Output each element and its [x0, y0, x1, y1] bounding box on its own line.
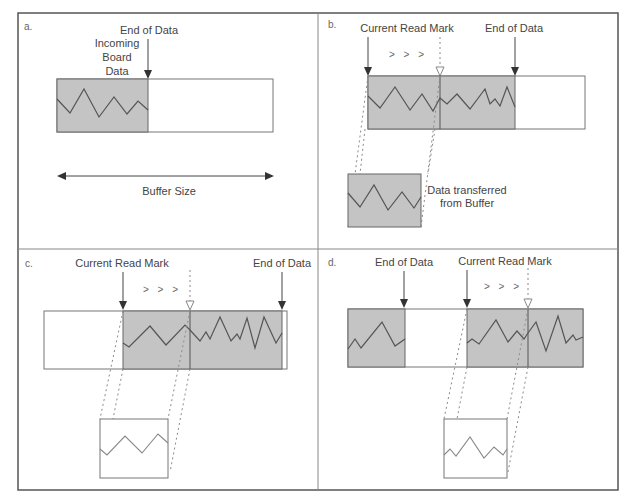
- transferred-data-box: [348, 174, 421, 227]
- transferred-label-1: Data transferred: [427, 184, 506, 196]
- buffer-wrapped-region: [348, 309, 405, 367]
- read-mark-arrow-icon: [463, 299, 471, 308]
- current-read-mark-label: Current Read Mark: [458, 255, 552, 267]
- panel-letter-d: d.: [328, 257, 336, 268]
- projection-line: [360, 129, 365, 174]
- arrow-left-icon: [57, 172, 66, 180]
- progress-chevrons: > > >: [143, 284, 181, 295]
- end-of-data-arrow-icon: [511, 67, 519, 76]
- read-mark-arrow-icon: [119, 301, 127, 310]
- end-of-data-label: End of Data: [485, 22, 544, 34]
- buffer-size-label: Buffer Size: [142, 185, 196, 197]
- circular-buffer-diagram: a. Incoming Board Data End of Data Buffe…: [0, 0, 633, 503]
- end-of-data-arrow-icon: [144, 70, 152, 79]
- arrow-right-icon: [265, 172, 274, 180]
- panel-letter-c: c.: [25, 258, 33, 269]
- progress-chevrons: > > >: [389, 49, 427, 60]
- new-read-mark-arrow-icon: [186, 301, 194, 310]
- incoming-data-label-3: Data: [105, 65, 129, 77]
- end-of-data-label: End of Data: [253, 257, 312, 269]
- panel-c: c. Current Read Mark End of Data > > >: [25, 257, 312, 478]
- projection-line: [170, 369, 190, 472]
- projection-line: [457, 367, 467, 419]
- new-read-mark-arrow-icon: [436, 67, 444, 76]
- transferred-data-box: [100, 419, 168, 478]
- projection-line: [113, 369, 123, 419]
- end-of-data-label: End of Data: [375, 256, 434, 268]
- panel-d: d. End of Data Current Read Mark > > >: [328, 255, 583, 478]
- current-read-mark-label: Current Read Mark: [360, 22, 454, 34]
- panel-letter-b: b.: [328, 19, 336, 30]
- transferred-label-2: from Buffer: [440, 197, 495, 209]
- progress-chevrons: > > >: [484, 281, 522, 292]
- projection-line: [428, 129, 435, 174]
- panel-a: a. Incoming Board Data End of Data Buffe…: [24, 21, 274, 197]
- end-of-data-label: End of Data: [120, 24, 179, 36]
- buffer-filled-region: [123, 311, 282, 369]
- panel-b: b. Current Read Mark End of Data > > > D…: [328, 19, 585, 227]
- incoming-data-label-2: Board: [102, 51, 131, 63]
- buffer-filled-region: [368, 76, 515, 129]
- new-read-mark-arrow-icon: [524, 299, 532, 308]
- transferred-data-box: [444, 419, 507, 478]
- current-read-mark-label: Current Read Mark: [75, 257, 169, 269]
- panel-letter-a: a.: [24, 21, 32, 32]
- incoming-data-label-1: Incoming: [95, 37, 140, 49]
- end-of-data-arrow-icon: [278, 301, 286, 310]
- end-of-data-arrow-icon: [400, 299, 408, 308]
- read-mark-arrow-icon: [364, 67, 372, 76]
- projection-line: [508, 367, 528, 472]
